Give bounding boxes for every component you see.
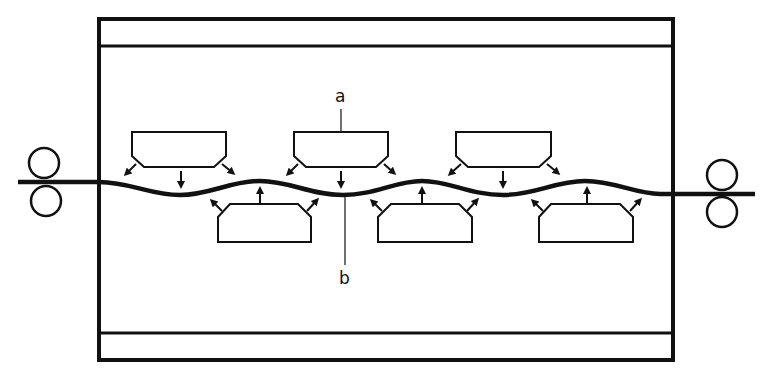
lower-nozzle-2 [378, 204, 472, 242]
strip [18, 181, 755, 195]
exit-roller-top [707, 160, 737, 190]
upper-nozzle-2 [294, 132, 388, 167]
upper-nozzles [132, 132, 551, 167]
lower-nozzle-1 [218, 204, 311, 242]
entry-roller-top [29, 148, 59, 178]
diagram-svg [0, 0, 775, 382]
exit-roller-bottom [707, 197, 737, 227]
upper-nozzle-1 [132, 132, 226, 167]
diagram-canvas: a b [0, 0, 775, 382]
entry-roller-bottom [31, 186, 61, 216]
lower-nozzle-3 [539, 204, 633, 242]
label-b: b [339, 268, 350, 288]
upper-nozzle-3 [456, 132, 551, 167]
lower-nozzles [218, 204, 633, 242]
label-a: a [335, 86, 345, 106]
